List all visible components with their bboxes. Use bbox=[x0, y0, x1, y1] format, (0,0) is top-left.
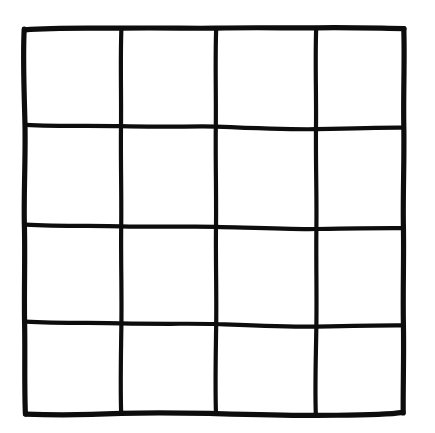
hand-drawn-grid bbox=[0, 0, 435, 433]
right-edge bbox=[403, 29, 404, 413]
drawing-canvas bbox=[0, 0, 435, 433]
left-edge bbox=[24, 29, 26, 414]
inner-vertical-3 bbox=[315, 28, 316, 414]
inner-vertical-2 bbox=[216, 28, 217, 414]
inner-vertical-1 bbox=[121, 28, 122, 414]
